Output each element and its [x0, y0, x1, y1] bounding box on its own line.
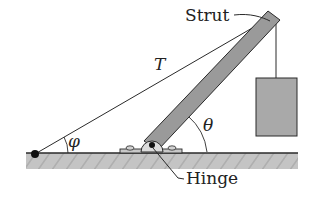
hanging-weight: [256, 78, 297, 136]
hinge: [120, 141, 182, 153]
strut-label: Strut: [185, 7, 229, 24]
hinge-label: Hinge: [186, 170, 238, 187]
tension-label: T: [154, 56, 165, 73]
theta-label: θ: [203, 117, 213, 134]
anchor-point: [31, 150, 39, 158]
ground: [26, 153, 298, 169]
strut-diagram: [0, 0, 317, 204]
phi-label: φ: [68, 133, 80, 150]
